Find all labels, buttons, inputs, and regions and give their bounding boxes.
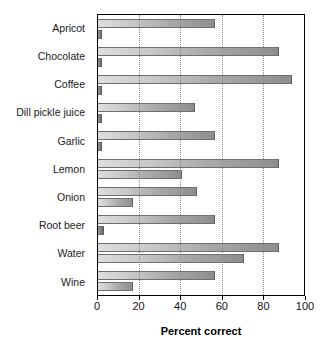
x-tick-label-80: 80 — [257, 301, 269, 312]
bar-slot — [98, 253, 304, 264]
bar-slot — [98, 197, 304, 208]
bar-slot — [98, 214, 304, 225]
bar-row — [98, 15, 304, 43]
bar-row — [98, 211, 304, 239]
bar-row — [98, 183, 304, 211]
bar-slot — [98, 225, 304, 236]
category-label-chocolate: Chocolate — [0, 42, 90, 70]
bar-row — [98, 43, 304, 71]
bar-upper — [98, 131, 215, 140]
bar-slot — [98, 158, 304, 169]
bar-slot — [98, 141, 304, 152]
bar-slot — [98, 186, 304, 197]
category-label-lemon: Lemon — [0, 155, 90, 183]
bar-lower — [98, 198, 133, 207]
bar-upper — [98, 103, 195, 112]
category-label-dill-pickle-juice: Dill pickle juice — [0, 99, 90, 127]
bar-lower — [98, 142, 102, 151]
bar-slot — [98, 281, 304, 292]
bar-row — [98, 71, 304, 99]
bar-upper — [98, 243, 279, 252]
category-label-water: Water — [0, 240, 90, 268]
bar-slot — [98, 74, 304, 85]
bar-slot — [98, 85, 304, 96]
bar-upper — [98, 47, 279, 56]
x-tick-label-60: 60 — [216, 301, 228, 312]
category-label-root-beer: Root beer — [0, 211, 90, 239]
bar-row — [98, 99, 304, 127]
bar-slot — [98, 29, 304, 40]
bar-slot — [98, 102, 304, 113]
category-axis-labels: Apricot Chocolate Coffee Dill pickle jui… — [0, 14, 90, 296]
bar-upper — [98, 19, 215, 28]
bar-row — [98, 239, 304, 267]
bar-slot — [98, 169, 304, 180]
bar-upper — [98, 159, 279, 168]
category-label-garlic: Garlic — [0, 127, 90, 155]
bar-lower — [98, 254, 244, 263]
x-tick-label-100: 100 — [296, 301, 314, 312]
bar-row — [98, 127, 304, 155]
category-label-apricot: Apricot — [0, 14, 90, 42]
bar-slot — [98, 113, 304, 124]
bar-row — [98, 155, 304, 183]
bar-lower — [98, 170, 182, 179]
bar-lower — [98, 30, 102, 39]
x-tick-label-0: 0 — [94, 301, 100, 312]
bar-lower — [98, 58, 102, 67]
bar-upper — [98, 187, 197, 196]
bar-upper — [98, 75, 292, 84]
bar-slot — [98, 242, 304, 253]
bar-row — [98, 267, 304, 295]
bar-lower — [98, 226, 104, 235]
bar-slot — [98, 270, 304, 281]
bar-slot — [98, 130, 304, 141]
bar-chart: Apricot Chocolate Coffee Dill pickle jui… — [0, 0, 335, 349]
bar-rows — [98, 15, 304, 295]
x-tick-label-20: 20 — [132, 301, 144, 312]
x-axis-tick-labels: 020406080100 — [97, 301, 305, 317]
bar-upper — [98, 215, 215, 224]
category-label-coffee: Coffee — [0, 70, 90, 98]
bar-slot — [98, 57, 304, 68]
category-label-wine: Wine — [0, 268, 90, 296]
bar-lower — [98, 86, 102, 95]
bar-slot — [98, 46, 304, 57]
bar-lower — [98, 114, 102, 123]
bar-slot — [98, 18, 304, 29]
bar-upper — [98, 271, 215, 280]
x-axis-title: Percent correct — [97, 325, 305, 337]
category-label-onion: Onion — [0, 183, 90, 211]
plot-area — [97, 14, 305, 296]
bar-lower — [98, 282, 133, 291]
x-tick-label-40: 40 — [174, 301, 186, 312]
